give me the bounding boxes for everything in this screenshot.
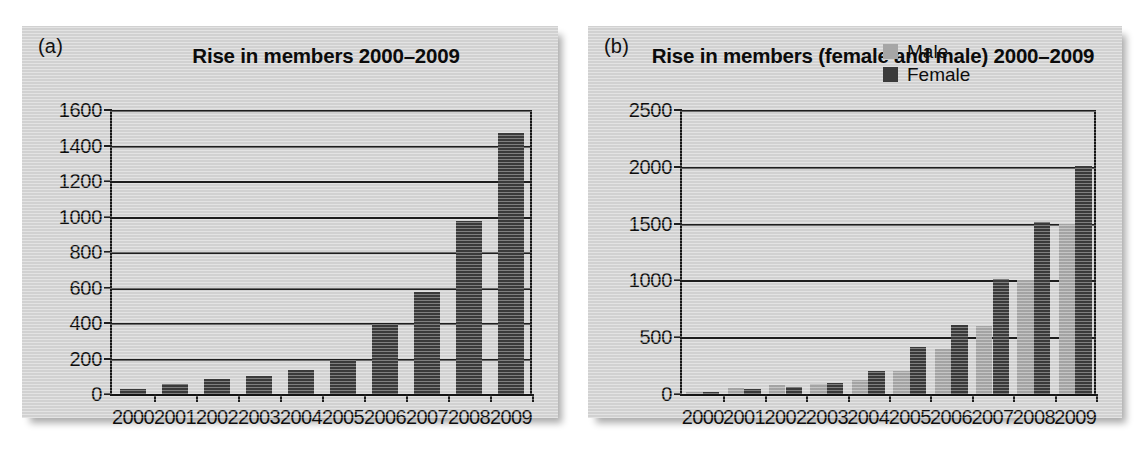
y-axis-tick [674,336,682,338]
gridline [112,146,532,148]
x-axis-tick [1055,394,1057,402]
bar [162,384,188,394]
y-axis-tick-label: 2000 [629,155,672,178]
legend-label-male: Male [907,41,948,63]
y-axis-tick [674,109,682,111]
gridline [682,167,1096,169]
x-axis-tick [196,394,198,402]
bar [288,370,314,394]
y-axis-tick-label: 0 [661,383,672,406]
x-axis-tick-label: 2005 [889,406,931,429]
x-axis-tick [280,394,282,402]
bar [951,325,968,394]
x-axis-tick-label: 2006 [930,406,972,429]
x-axis-tick [1013,394,1015,402]
y-axis-tick-label: 600 [70,276,102,299]
x-axis-tick-label: 2002 [196,406,238,429]
bar [498,133,524,394]
x-axis-tick [806,394,808,402]
gridline [682,110,1096,112]
x-axis-tick [322,394,324,402]
x-axis-tick-label: 2001 [723,406,765,429]
y-axis-tick-label: 1000 [59,205,102,228]
x-axis-tick [889,394,891,402]
x-axis-tick [490,394,492,402]
x-axis-tick [448,394,450,402]
x-axis-tick-label: 2008 [1013,406,1055,429]
x-axis-tick-label: 2007 [971,406,1013,429]
bar [852,380,869,394]
bar [456,221,482,394]
legend-swatch-male-icon [883,44,898,59]
bar [810,384,827,394]
x-axis-tick-label: 2000 [682,406,724,429]
x-axis-tick-label: 2008 [448,406,490,429]
x-axis-tick [765,394,767,402]
x-axis-tick-label: 2007 [406,406,448,429]
y-axis-tick [104,287,112,289]
x-axis-tick [364,394,366,402]
y-axis-tick-label: 200 [70,347,102,370]
chart-panel-a: (a) Rise in members 2000–2009 0200400600… [22,26,558,418]
y-axis-tick [104,322,112,324]
x-axis-tick [1096,394,1098,402]
y-axis-tick-label: 0 [91,383,102,406]
y-axis-tick [674,279,682,281]
y-axis-tick-label: 1000 [629,269,672,292]
x-axis-tick-label: 2006 [364,406,406,429]
y-axis-tick [104,180,112,182]
bar [246,376,272,394]
x-axis-tick-label: 2002 [764,406,806,429]
chart-panel-b: (b) Rise in members (female and male) 20… [588,26,1122,418]
legend-label-female: Female [907,64,970,86]
y-axis-tick-label: 400 [70,312,102,335]
y-axis-tick [104,393,112,395]
y-axis-tick-label: 2500 [629,99,672,122]
bar [935,349,952,394]
y-axis-tick-label: 1400 [59,134,102,157]
x-axis-tick [154,394,156,402]
x-axis-tick-label: 2004 [847,406,889,429]
x-axis-tick [972,394,974,402]
chart-title-b: Rise in members (female and male) 2000–2… [630,44,1116,68]
y-axis-tick [674,223,682,225]
panel-label-a: (a) [38,35,63,58]
bar [769,385,786,394]
bar [120,389,146,394]
bar [786,387,803,394]
y-axis-tick-label: 1600 [59,99,102,122]
panel-label-b: (b) [604,35,629,58]
y-axis-tick-label: 1500 [629,212,672,235]
bar [744,389,761,394]
x-axis-tick [238,394,240,402]
y-axis-tick [104,358,112,360]
figure: (a) Rise in members 2000–2009 0200400600… [0,0,1145,464]
bar [728,388,745,394]
bar [703,392,720,394]
chart-legend-b: Male Female [883,40,970,86]
x-axis-tick [532,394,534,402]
plot-area-b: 0500100015002000250020002001200220032004… [680,110,1096,396]
y-axis-tick [104,216,112,218]
legend-item-male: Male [883,40,970,63]
y-axis-tick [104,109,112,111]
y-axis-tick [674,393,682,395]
x-axis-tick-label: 2009 [490,406,532,429]
legend-item-female: Female [883,63,970,86]
x-axis-tick-label: 2003 [238,406,280,429]
y-axis-tick [104,145,112,147]
bar [204,379,230,394]
bar [1059,224,1076,394]
bar [330,360,356,394]
bar [827,383,844,394]
bar [372,324,398,394]
bar [868,371,885,394]
x-axis-tick-label: 2001 [154,406,196,429]
x-axis-tick-label: 2009 [1054,406,1096,429]
x-axis-tick-label: 2003 [806,406,848,429]
bar [686,392,703,394]
bar [976,326,993,394]
y-axis-tick-label: 800 [70,241,102,264]
x-axis-tick [406,394,408,402]
bar [1017,280,1034,394]
